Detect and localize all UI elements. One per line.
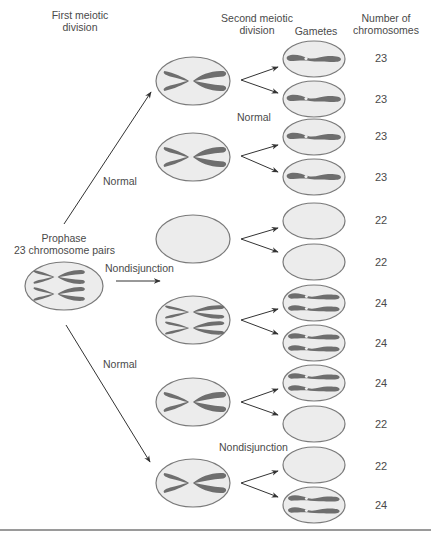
gamete-9-double bbox=[283, 365, 345, 401]
secondary-cell-double bbox=[156, 296, 230, 344]
secondary-cell-normal-1 bbox=[156, 57, 230, 105]
gamete-5-empty bbox=[283, 203, 345, 239]
secondary-cell-empty bbox=[156, 215, 230, 263]
prophase-cell bbox=[25, 262, 103, 310]
gamete-2 bbox=[283, 81, 345, 117]
bottom-divider bbox=[0, 529, 431, 531]
gamete-12-double bbox=[283, 487, 345, 523]
gamete-10-empty bbox=[283, 406, 345, 442]
arrow-first-division-up bbox=[64, 92, 151, 224]
gamete-11-empty bbox=[283, 447, 345, 483]
gamete-1 bbox=[283, 41, 345, 77]
secondary-cell-normal-2 bbox=[156, 133, 230, 181]
meiosis-diagram bbox=[0, 0, 431, 534]
secondary-cell-normal-4 bbox=[156, 459, 230, 507]
gamete-4 bbox=[283, 159, 345, 195]
gamete-6-empty bbox=[283, 244, 345, 280]
arrow-first-division-down bbox=[66, 325, 150, 462]
gamete-7-double bbox=[283, 285, 345, 321]
gamete-3 bbox=[283, 119, 345, 155]
gamete-8-double bbox=[283, 325, 345, 361]
secondary-cell-normal-3 bbox=[156, 378, 230, 426]
